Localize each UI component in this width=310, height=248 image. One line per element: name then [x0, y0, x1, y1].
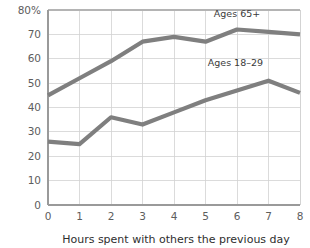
x-axis-title: Hours spent with others the previous day [62, 233, 290, 246]
x-axis-tick-label: 3 [139, 210, 146, 222]
series-annotation-ages-65-plus: Ages 65+ [214, 8, 260, 19]
x-axis-tick-label: 8 [297, 210, 304, 222]
y-axis-tick-label: 0 [34, 199, 41, 211]
x-axis-tick-label: 7 [265, 210, 272, 222]
y-axis-tick-label: 30 [28, 125, 41, 137]
y-axis-tick-label: 60 [28, 52, 41, 64]
x-axis-tick-label: 4 [171, 210, 178, 222]
x-axis-tick-label: 6 [234, 210, 241, 222]
y-axis-tick-label: 80% [18, 4, 41, 16]
chart-canvas: 01020304050607080% 012345678 Ages 65+Age… [0, 0, 310, 248]
y-axis-tick-labels: 01020304050607080% [18, 4, 41, 211]
series-annotation-ages-18-29: Ages 18–29 [208, 57, 263, 68]
y-axis-tick-label: 70 [28, 28, 41, 40]
y-axis-tick-label: 40 [28, 101, 41, 113]
x-axis-tick-label: 0 [45, 210, 52, 222]
line-chart: 01020304050607080% 012345678 Ages 65+Age… [0, 0, 310, 248]
y-axis-tick-label: 20 [28, 150, 41, 162]
x-axis-tick-labels: 012345678 [45, 210, 304, 222]
y-axis-tick-label: 50 [28, 77, 41, 89]
x-axis-tick-label: 1 [76, 210, 83, 222]
x-axis-tick-label: 2 [108, 210, 115, 222]
y-axis-tick-label: 10 [28, 174, 41, 186]
x-axis-tick-label: 5 [202, 210, 209, 222]
